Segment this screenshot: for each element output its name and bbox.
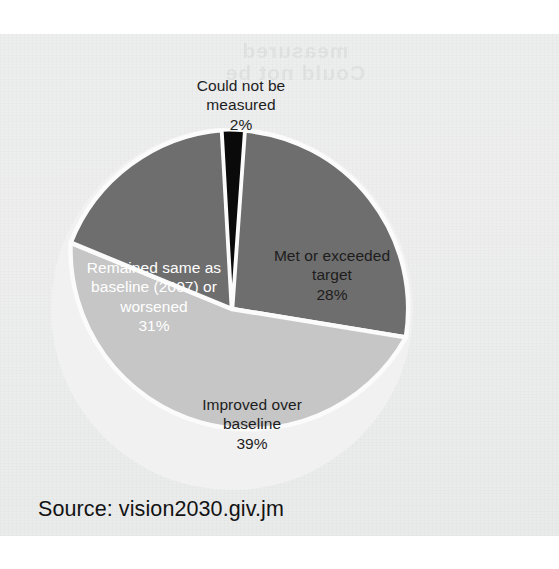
pie-label-met-or-exceeded-target-text: Met or exceeded target — [274, 247, 390, 284]
pie-label-could-not-be-measured-percent: 2% — [146, 115, 336, 135]
pie-label-remained-same-as-baseline-percent: 31% — [54, 316, 254, 336]
pie-label-improved-over-baseline: Improved over baseline 39% — [163, 375, 341, 473]
pie-label-could-not-be-measured-text: Could not be measured — [197, 77, 286, 114]
pie-label-met-or-exceeded-target-percent: 28% — [250, 285, 414, 305]
chart-source-caption: Source: vision2030.giv.jm — [38, 496, 284, 522]
pie-label-improved-over-baseline-text: Improved over baseline — [202, 396, 302, 433]
pie-chart-figure: Could not be measured 2% Met or exceeded… — [0, 0, 559, 569]
pie-label-remained-same-as-baseline-text: Remained same as baseline (2007) or wors… — [87, 259, 221, 315]
pie-label-could-not-be-measured: Could not be measured 2% — [146, 56, 336, 154]
pie-label-met-or-exceeded-target: Met or exceeded target 28% — [250, 226, 414, 324]
pie-label-improved-over-baseline-percent: 39% — [163, 434, 341, 454]
pie-label-remained-same-as-baseline: Remained same as baseline (2007) or wors… — [54, 238, 254, 355]
